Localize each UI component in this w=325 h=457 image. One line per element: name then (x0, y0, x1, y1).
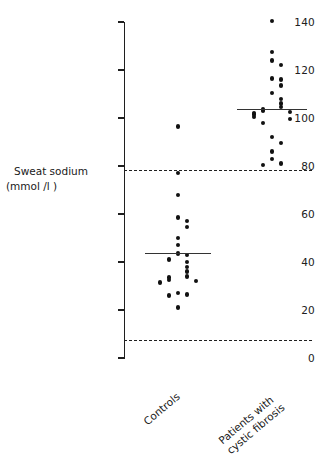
lower-reference-line (124, 340, 312, 341)
data-point (176, 171, 180, 175)
data-point (185, 225, 189, 229)
y-tick-mark-120 (118, 69, 124, 70)
y-tick-mark-80 (118, 165, 124, 166)
upper-reference-line (124, 170, 312, 171)
controls-mean-line (145, 253, 211, 255)
y-tick-label-40: 40 (213, 257, 325, 268)
data-point (279, 161, 283, 165)
data-point (176, 236, 180, 240)
data-point (167, 278, 171, 282)
data-point (270, 58, 274, 62)
data-point (176, 305, 180, 309)
data-point (279, 97, 283, 101)
y-axis-line (124, 22, 125, 359)
y-axis-title-line-1: Sweat sodium (6, 164, 114, 179)
data-point (176, 243, 180, 247)
data-point (270, 76, 274, 80)
data-point (185, 219, 189, 223)
data-point (270, 149, 274, 153)
data-point (176, 124, 180, 128)
y-tick-label-120: 120 (213, 65, 325, 76)
data-point (279, 77, 283, 81)
data-point (176, 193, 180, 197)
data-point (185, 260, 189, 264)
data-point (176, 215, 180, 219)
y-tick-label-0: 0 (213, 353, 325, 364)
y-tick-mark-60 (118, 213, 124, 214)
y-tick-label-60: 60 (213, 209, 325, 220)
y-tick-mark-100 (118, 117, 124, 118)
data-point (270, 91, 274, 95)
data-point (185, 269, 189, 273)
data-point (261, 121, 265, 125)
data-point (158, 280, 162, 284)
y-tick-label-20: 20 (213, 305, 325, 316)
x-axis-label-controls: Controls (141, 390, 183, 428)
y-tick-label-140: 140 (213, 17, 325, 28)
data-point (270, 135, 274, 139)
data-point (194, 279, 198, 283)
data-point (185, 265, 189, 269)
data-point (185, 292, 189, 296)
y-axis-title-line-2: (mmol /l ) (6, 179, 114, 194)
data-point (279, 83, 283, 87)
y-tick-label-100: 100 (213, 113, 325, 124)
y-tick-mark-0 (118, 357, 124, 358)
data-point (270, 50, 274, 54)
data-point (176, 291, 180, 295)
data-point (167, 257, 171, 261)
patients-mean-line (237, 109, 307, 111)
x-axis-label-patients: Patients with cystic fibrosis (216, 391, 287, 457)
y-tick-mark-40 (118, 261, 124, 262)
y-tick-mark-140 (118, 21, 124, 22)
data-point (279, 141, 283, 145)
data-point (185, 274, 189, 278)
data-point (167, 293, 171, 297)
y-tick-mark-20 (118, 309, 124, 310)
y-axis-title: Sweat sodium (mmol /l ) (6, 164, 114, 194)
